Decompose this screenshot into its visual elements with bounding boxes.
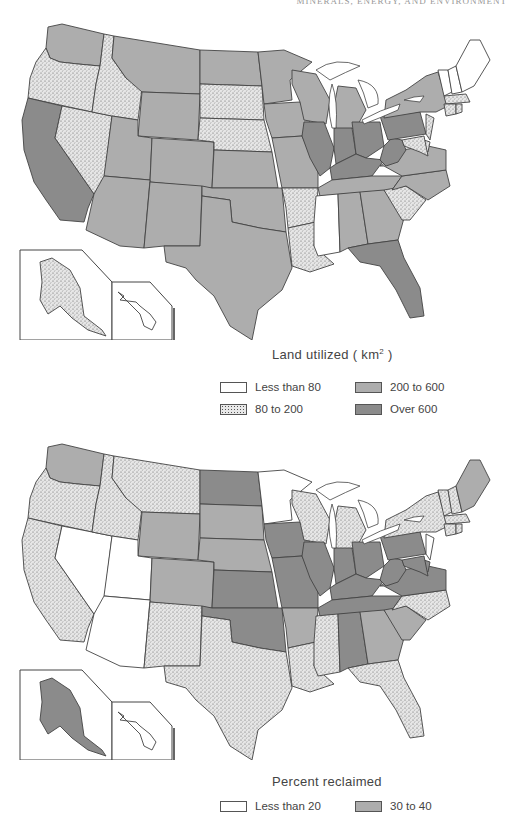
legend-unit-open: ( km <box>353 347 379 362</box>
state-fl <box>348 240 424 318</box>
state-ri <box>456 104 462 114</box>
legend-item-200-600: 200 to 600 <box>355 381 444 393</box>
state-nj <box>426 114 434 140</box>
state-wy <box>138 92 200 140</box>
legend-label: Over 600 <box>390 403 437 415</box>
legend-item-80-200: 80 to 200 <box>220 403 303 415</box>
state-fl <box>348 660 424 738</box>
state-ma <box>444 514 470 524</box>
state-me <box>456 40 490 92</box>
map-percent-reclaimed <box>0 415 517 760</box>
state-ma <box>444 94 470 104</box>
state-ks <box>212 150 278 188</box>
legend-title-text: Land utilized <box>272 347 349 362</box>
state-ct <box>444 524 456 536</box>
state-nm <box>144 182 202 248</box>
legend-item-over600: Over 600 <box>355 403 437 415</box>
state-ri <box>456 524 462 534</box>
legend-unit-close: ) <box>384 347 393 362</box>
swatch-stipple <box>220 404 247 415</box>
legend-label: 80 to 200 <box>255 403 303 415</box>
swatch-mid-gray <box>355 382 382 393</box>
state-ct <box>444 104 456 116</box>
state-ar <box>282 188 318 228</box>
state-sd <box>200 84 264 120</box>
state-ms <box>314 614 340 676</box>
legend-item-lt20: Less than 20 <box>220 800 321 812</box>
state-wy <box>138 512 200 560</box>
map-land-utilized <box>0 0 517 340</box>
state-oh <box>352 542 384 578</box>
legend-label: Less than 80 <box>255 381 321 393</box>
state-co <box>150 558 214 608</box>
legend-item-lt80: Less than 80 <box>220 381 321 393</box>
swatch-dark-gray <box>355 404 382 415</box>
legend-label: 30 to 40 <box>390 800 432 812</box>
state-sd <box>200 504 264 540</box>
state-ar <box>282 608 318 648</box>
legend-title-percent-reclaimed: Percent reclaimed <box>272 774 382 789</box>
state-me <box>456 460 490 512</box>
state-ms <box>314 194 340 256</box>
swatch-white <box>220 801 247 812</box>
state-nd <box>200 50 262 86</box>
state-ks <box>212 570 278 608</box>
state-nm <box>144 602 202 668</box>
state-oh <box>352 122 384 158</box>
state-nj <box>426 534 434 560</box>
state-co <box>150 138 214 188</box>
state-nd <box>200 470 262 506</box>
legend-label: 200 to 600 <box>390 381 444 393</box>
swatch-mid-gray <box>355 801 382 812</box>
legend-item-30-40: 30 to 40 <box>355 800 432 812</box>
legend-label: Less than 20 <box>255 800 321 812</box>
legend-title-land-utilized: Land utilized ( km2 ) <box>272 347 393 362</box>
swatch-white <box>220 382 247 393</box>
